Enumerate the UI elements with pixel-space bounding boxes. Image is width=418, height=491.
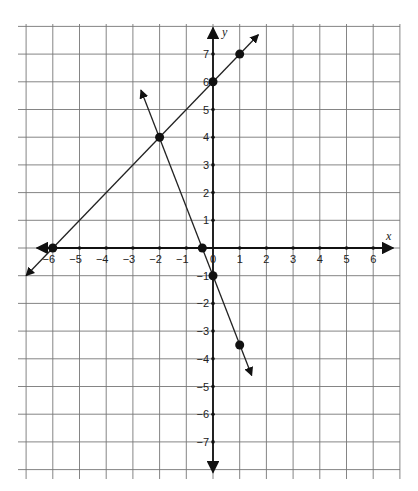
x-tick-label: −6 [43, 253, 56, 265]
y-tick-label: −3 [196, 325, 209, 337]
y-tick-label: 1 [203, 214, 209, 226]
y-tick-label: −5 [196, 381, 209, 393]
y-tick-label: −2 [196, 297, 209, 309]
data-point [235, 340, 244, 349]
y-tick-label: −7 [196, 436, 209, 448]
x-tick-label: 3 [290, 253, 296, 265]
data-point [235, 50, 244, 59]
x-tick-label: 0 [210, 253, 216, 265]
x-tick-label: 2 [263, 253, 269, 265]
y-tick-label: −4 [196, 353, 209, 365]
x-tick-label: −3 [123, 253, 136, 265]
x-tick-label: 1 [237, 253, 243, 265]
plotted-points [48, 50, 244, 350]
coordinate-plane: −6−5−4−3−2−10123456−7−6−5−4−3−2−11234567… [0, 0, 418, 491]
data-point [155, 133, 164, 142]
x-axis-label: x [385, 229, 392, 243]
y-tick-label: 2 [203, 187, 209, 199]
data-point [198, 244, 207, 253]
y-tick-label: −1 [196, 270, 209, 282]
x-tick-label: 6 [370, 253, 376, 265]
axes [37, 28, 393, 473]
x-tick-label: −1 [176, 253, 189, 265]
data-point [209, 271, 218, 280]
data-point [209, 77, 218, 86]
y-tick-label: 4 [203, 131, 209, 143]
grid-lines [18, 24, 400, 479]
y-tick-label: 7 [203, 48, 209, 60]
plotted-lines [26, 35, 258, 376]
plotted-line [26, 35, 258, 276]
x-tick-label: −2 [149, 253, 162, 265]
x-tick-label: −4 [96, 253, 109, 265]
x-tick-label: −5 [69, 253, 82, 265]
y-tick-label: 5 [203, 104, 209, 116]
y-tick-label: −6 [196, 408, 209, 420]
y-axis-label: y [221, 25, 228, 39]
x-tick-label: 4 [317, 253, 323, 265]
x-tick-label: 5 [343, 253, 349, 265]
y-tick-label: 3 [203, 159, 209, 171]
data-point [48, 244, 57, 253]
